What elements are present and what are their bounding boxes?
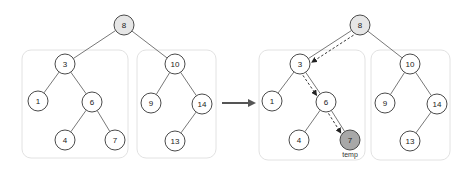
tree-node-4: 4 [55, 130, 75, 150]
node-label: 13 [406, 137, 415, 146]
tree-node-7: 7 [340, 130, 360, 150]
node-label: 4 [297, 136, 302, 145]
node-label: 8 [122, 21, 127, 30]
edge-10-9 [390, 72, 404, 94]
node-label: 13 [171, 137, 180, 146]
tree-node-10: 10 [400, 54, 420, 74]
tree-node-10: 10 [165, 54, 185, 74]
tree-edges [278, 30, 431, 132]
tree-node-1: 1 [262, 91, 282, 111]
tree-node-3: 3 [55, 54, 75, 74]
node-label: 4 [63, 136, 68, 145]
edge-8-3 [308, 30, 351, 58]
tree-before: 8310169144713 [22, 15, 216, 158]
node-label: 9 [383, 99, 388, 108]
node-label: 10 [171, 60, 180, 69]
tree-node-14: 14 [192, 94, 212, 114]
tree-after: 8310169144713 temp [259, 15, 450, 160]
node-label: 14 [433, 100, 442, 109]
edge-8-3 [73, 31, 115, 59]
edge-14-13 [181, 112, 196, 133]
node-label: 10 [406, 60, 415, 69]
edge-6-4 [71, 110, 86, 132]
tree-node-8: 8 [114, 15, 134, 35]
tree-node-4: 4 [289, 130, 309, 150]
tree-node-9: 9 [141, 93, 161, 113]
tree-node-8: 8 [350, 15, 370, 35]
tree-nodes: 8310169144713 [28, 15, 212, 151]
tree-node-9: 9 [375, 93, 395, 113]
edge-3-1 [44, 72, 59, 93]
bst-diagram: 8310169144713 8310169144713 temp [0, 0, 471, 172]
node-label: 9 [149, 99, 154, 108]
node-label: 1 [36, 97, 41, 106]
edge-6-4 [305, 110, 320, 132]
edge-6-7 [331, 110, 344, 131]
node-label: 6 [90, 98, 95, 107]
node-label: 7 [113, 136, 118, 145]
traversal-arrow-8-3 [312, 35, 354, 62]
edge-14-13 [416, 112, 431, 133]
node-label: 8 [358, 21, 363, 30]
tree-node-1: 1 [28, 91, 48, 111]
node-label: 7 [348, 136, 353, 145]
edge-10-14 [416, 72, 432, 95]
tree-node-7: 7 [105, 130, 125, 150]
edge-3-1 [278, 72, 294, 93]
tree-edges [44, 31, 197, 133]
node-label: 1 [270, 97, 275, 106]
edge-6-7 [97, 111, 110, 132]
edge-8-10 [132, 31, 167, 58]
tree-node-13: 13 [165, 131, 185, 151]
tree-node-6: 6 [82, 92, 102, 112]
node-label: 6 [324, 98, 329, 107]
edge-10-14 [181, 72, 197, 95]
temp-label: temp [342, 151, 358, 159]
edge-3-6 [71, 72, 86, 94]
tree-node-14: 14 [427, 94, 447, 114]
node-label: 3 [63, 60, 68, 69]
node-label: 14 [198, 100, 207, 109]
node-label: 3 [298, 60, 303, 69]
edge-10-9 [156, 73, 170, 95]
tree-node-13: 13 [400, 131, 420, 151]
tree-node-6: 6 [316, 92, 336, 112]
tree-node-3: 3 [290, 54, 310, 74]
tree-nodes: 8310169144713 [262, 15, 447, 151]
